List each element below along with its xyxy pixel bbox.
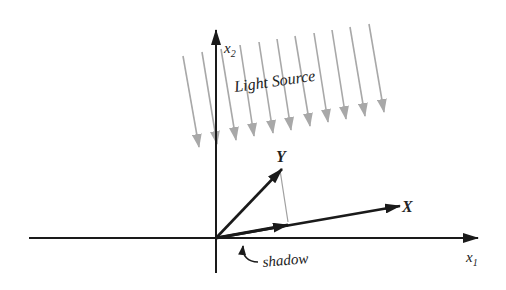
x1-axis-label: x1 bbox=[465, 249, 478, 268]
light-ray-arrow bbox=[314, 33, 328, 122]
x2-axis-label: x2 bbox=[223, 40, 236, 59]
light-projection-diagram: Light Source x1 x2 Y X shadow bbox=[0, 0, 506, 290]
light-ray-arrow bbox=[183, 56, 199, 147]
shadow-pointer-arrow bbox=[243, 246, 258, 262]
light-ray-arrow bbox=[221, 49, 236, 140]
light-ray-arrow bbox=[350, 27, 365, 116]
light-ray-arrow bbox=[202, 52, 217, 144]
light-ray-arrow bbox=[369, 24, 384, 112]
shadow-label: shadow bbox=[262, 250, 309, 270]
vector-y-label: Y bbox=[276, 148, 287, 165]
vector-x-label: X bbox=[401, 198, 413, 215]
light-ray-arrow bbox=[332, 30, 346, 119]
projection-line bbox=[280, 170, 288, 222]
